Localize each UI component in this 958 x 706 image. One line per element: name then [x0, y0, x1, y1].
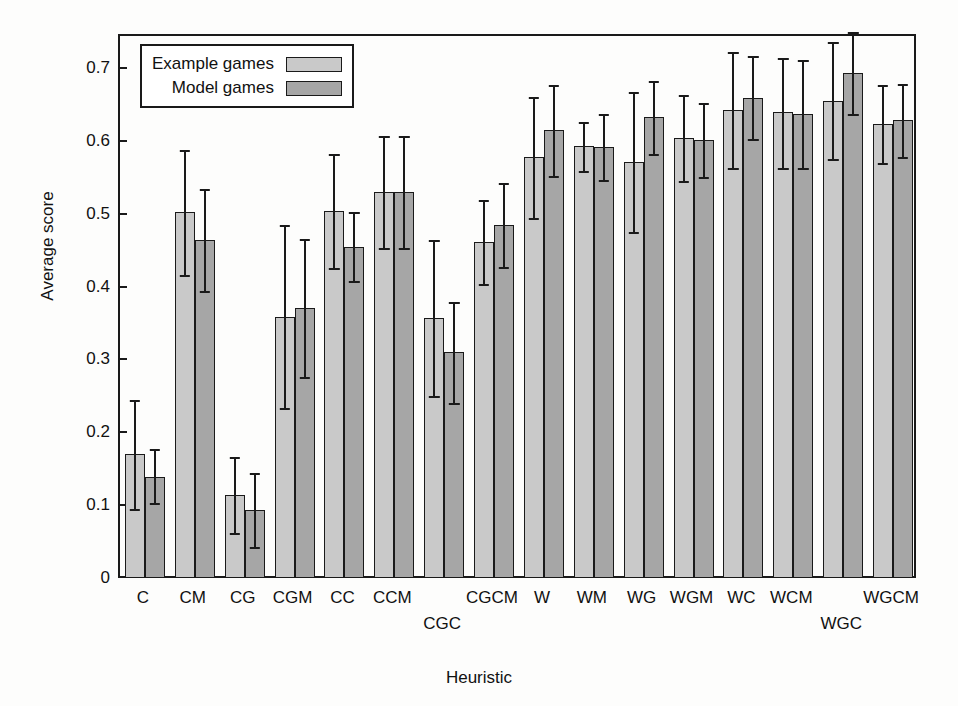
- bar-model-WC: [743, 98, 763, 578]
- error-cap-upper-example-C: [130, 400, 140, 402]
- error-bar-example-CG: [234, 457, 236, 533]
- bar-example-WGC: [823, 101, 843, 578]
- x-axis-tick-label-C: C: [137, 588, 149, 608]
- error-cap-lower-example-CG: [230, 533, 240, 535]
- error-bar-example-WCM: [782, 58, 784, 168]
- error-cap-upper-example-WGCM: [878, 85, 888, 87]
- bar-example-CGCM: [474, 242, 494, 578]
- error-cap-lower-example-WGC: [828, 159, 838, 161]
- error-cap-lower-model-C: [150, 503, 160, 505]
- error-cap-upper-model-CM: [200, 189, 210, 191]
- error-bar-model-WM: [603, 114, 605, 180]
- error-cap-upper-model-C: [150, 449, 160, 451]
- bar-model-WM: [594, 147, 614, 578]
- error-cap-lower-model-WGC: [848, 114, 858, 116]
- error-bar-model-CGCM: [503, 183, 505, 268]
- y-axis-tick-label: 0.6: [86, 131, 110, 151]
- legend-swatch-model-icon: [286, 81, 342, 96]
- error-cap-lower-model-WCM: [798, 168, 808, 170]
- x-axis-tick-label-CC: CC: [330, 588, 355, 608]
- error-bar-model-C: [154, 449, 156, 504]
- x-axis-tick-label-CCM: CCM: [373, 588, 412, 608]
- error-bar-model-CG: [254, 473, 256, 547]
- error-cap-upper-example-CC: [329, 154, 339, 156]
- x-axis-tick-label-CGM: CGM: [273, 588, 313, 608]
- x-axis-tick-label-WC: WC: [727, 588, 755, 608]
- error-bar-example-CM: [184, 150, 186, 275]
- y-axis-tick-labels: 00.10.20.30.40.50.60.7: [58, 0, 110, 706]
- error-cap-lower-example-WM: [579, 171, 589, 173]
- error-bar-model-WC: [752, 56, 754, 139]
- error-bar-example-WG: [633, 92, 635, 232]
- bar-model-WGM: [694, 140, 714, 578]
- bar-model-W: [544, 130, 564, 578]
- error-bar-example-CGM: [284, 225, 286, 408]
- error-cap-lower-example-C: [130, 509, 140, 511]
- bar-model-WG: [644, 117, 664, 578]
- error-cap-lower-example-WCM: [778, 168, 788, 170]
- error-cap-lower-model-WM: [599, 180, 609, 182]
- bar-example-WC: [723, 110, 743, 578]
- error-bar-model-WCM: [802, 60, 804, 168]
- error-cap-lower-model-CCM: [399, 248, 409, 250]
- error-cap-upper-example-CGC: [429, 240, 439, 242]
- y-axis-tick-label: 0.2: [86, 422, 110, 442]
- x-axis-tick-label-WGC: WGC: [820, 614, 862, 634]
- legend: Example games Model games: [140, 44, 354, 108]
- error-bar-example-WGC: [832, 42, 834, 159]
- error-bar-model-WGC: [852, 32, 854, 114]
- error-cap-lower-model-CGCM: [499, 267, 509, 269]
- error-cap-upper-example-W: [529, 97, 539, 99]
- error-cap-lower-example-CGM: [279, 408, 289, 410]
- error-cap-lower-example-CGCM: [479, 284, 489, 286]
- error-cap-upper-example-CGCM: [479, 200, 489, 202]
- y-axis-tick-label: 0.5: [86, 204, 110, 224]
- error-cap-lower-example-CCM: [379, 248, 389, 250]
- error-bar-model-W: [553, 85, 555, 177]
- y-axis-tick-label: 0.7: [86, 58, 110, 78]
- error-cap-lower-model-WGM: [698, 177, 708, 179]
- x-axis-tick-label-W: W: [534, 588, 550, 608]
- error-bar-example-CGC: [433, 240, 435, 396]
- legend-item-model: Model games: [152, 76, 342, 100]
- error-cap-upper-model-WG: [648, 81, 658, 83]
- error-cap-lower-example-CGC: [429, 396, 439, 398]
- error-bar-model-CM: [204, 189, 206, 292]
- error-cap-upper-model-WGM: [698, 103, 708, 105]
- bar-example-WGCM: [873, 124, 893, 578]
- y-axis-tick-label: 0.4: [86, 277, 110, 297]
- error-cap-lower-model-WG: [648, 154, 658, 156]
- x-axis-tick-label-WM: WM: [577, 588, 607, 608]
- bar-model-CGCM: [494, 225, 514, 578]
- y-axis-tick-label: 0.3: [86, 349, 110, 369]
- error-bar-example-WC: [732, 52, 734, 167]
- error-cap-upper-model-CGC: [449, 302, 459, 304]
- error-cap-upper-model-CGCM: [499, 183, 509, 185]
- error-bar-model-CGM: [304, 239, 306, 377]
- error-cap-lower-model-CG: [249, 547, 259, 549]
- error-cap-upper-model-WGCM: [898, 84, 908, 86]
- error-bar-model-WGM: [703, 103, 705, 177]
- error-cap-lower-model-CC: [349, 281, 359, 283]
- error-cap-upper-example-CCM: [379, 136, 389, 138]
- error-bar-model-CCM: [403, 136, 405, 248]
- error-cap-lower-example-W: [529, 218, 539, 220]
- error-bar-example-C: [134, 400, 136, 509]
- error-cap-lower-model-WC: [748, 139, 758, 141]
- y-axis-tick-label: 0: [101, 568, 110, 588]
- error-cap-lower-model-CM: [200, 291, 210, 293]
- error-cap-upper-model-CCM: [399, 136, 409, 138]
- error-cap-lower-example-WGCM: [878, 163, 888, 165]
- bar-example-WM: [574, 146, 594, 578]
- error-cap-upper-model-WGC: [848, 32, 858, 34]
- error-cap-lower-example-CC: [329, 268, 339, 270]
- bar-model-WGCM: [893, 120, 913, 578]
- x-axis-tick-label-CM: CM: [180, 588, 206, 608]
- error-cap-upper-example-WGC: [828, 42, 838, 44]
- error-cap-upper-model-WCM: [798, 60, 808, 62]
- bar-example-W: [524, 157, 544, 578]
- error-cap-lower-model-W: [549, 176, 559, 178]
- x-axis-title: Heuristic: [0, 668, 958, 688]
- error-bar-example-WGCM: [882, 85, 884, 164]
- y-axis-title: Average score: [38, 136, 58, 356]
